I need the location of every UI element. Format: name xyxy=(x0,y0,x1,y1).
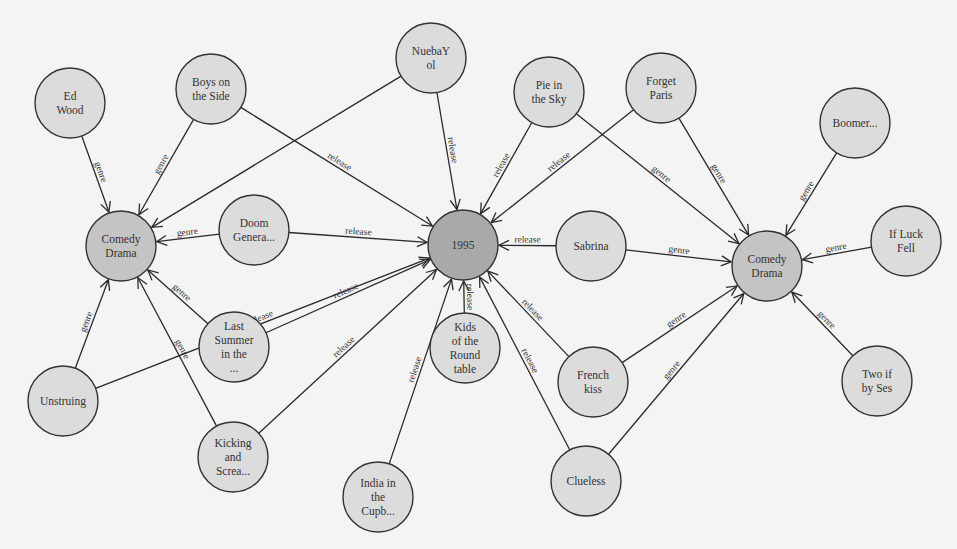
node-label-line: Kicking xyxy=(214,437,251,450)
node-forget-paris[interactable]: ForgetParis xyxy=(626,53,696,123)
node-sabrina[interactable]: Sabrina xyxy=(556,211,626,281)
node-kicking-screa[interactable]: KickingandScrea... xyxy=(198,422,268,492)
node-circle[interactable] xyxy=(35,68,105,138)
node-circle[interactable] xyxy=(732,231,802,301)
edge-line xyxy=(266,260,430,333)
node-label-line: Pie in xyxy=(536,79,563,91)
node-kids-round-table[interactable]: Kidsof theRoundtable xyxy=(430,313,500,383)
node-label-line: If Luck xyxy=(889,228,923,240)
node-label-line: table xyxy=(454,363,476,375)
edge-line xyxy=(464,281,465,313)
node-label-line: Genera... xyxy=(233,231,275,243)
node-label-line: Last xyxy=(224,320,245,332)
edge-boys_on_the_side-to-comedy_drama_left: genre xyxy=(139,119,194,214)
node-circle[interactable] xyxy=(626,53,696,123)
node-label-line: Ed xyxy=(64,90,77,102)
node-unstruing[interactable]: Unstruing xyxy=(28,366,98,436)
graph-diagram: genregenregenregenregenregenrereleaserel… xyxy=(0,0,957,549)
edge-sabrina-to-comedy_drama_right: genre xyxy=(626,244,731,262)
edge-unstruing-to-year_1995: release xyxy=(96,258,430,388)
edge-line xyxy=(622,286,737,363)
edge-last_summer-to-year_1995: release xyxy=(266,260,430,333)
node-french-kiss[interactable]: Frenchkiss xyxy=(558,347,628,417)
node-label-line: India in xyxy=(360,477,396,489)
node-comedy-drama-right[interactable]: ComedyDrama xyxy=(732,231,802,301)
node-label-line: 1995 xyxy=(452,239,475,251)
node-label-line: the Side xyxy=(192,90,229,102)
edge-ed_wood-to-comedy_drama_left: genre xyxy=(82,136,109,212)
edge-pie_in_the_sky-to-year_1995: release xyxy=(481,123,532,214)
node-label-line: Drama xyxy=(105,247,136,259)
node-label-line: Comedy xyxy=(102,233,141,246)
node-label-line: the Sky xyxy=(532,93,567,106)
node-label-line: NuebaY xyxy=(412,45,451,57)
node-clueless[interactable]: Clueless xyxy=(551,446,621,516)
node-circle[interactable] xyxy=(86,211,156,281)
node-nuebayol[interactable]: NuebaYol xyxy=(396,23,466,93)
edge-if_luck_fell-to-comedy_drama_right: genre xyxy=(802,241,871,260)
node-pie-in-the-sky[interactable]: Pie inthe Sky xyxy=(514,57,584,127)
node-label-line: Unstruing xyxy=(40,395,86,408)
edge-line xyxy=(792,292,853,356)
node-label-line: in the xyxy=(221,348,247,360)
node-label-line: Paris xyxy=(650,89,674,101)
node-label-line: Comedy xyxy=(748,253,787,266)
edge-doom_genera-to-comedy_drama_left: genre xyxy=(157,226,220,242)
node-label-line: Drama xyxy=(751,267,782,279)
node-circle[interactable] xyxy=(396,23,466,93)
edge-sabrina-to-year_1995: release xyxy=(499,234,556,245)
edge-line xyxy=(679,118,749,235)
edge-label: genre xyxy=(176,226,198,238)
node-comedy-drama-left[interactable]: ComedyDrama xyxy=(86,211,156,281)
edge-label: genre xyxy=(668,244,690,256)
edge-unstruing-to-comedy_drama_left: genre xyxy=(75,280,108,369)
edge-label: release xyxy=(326,150,354,172)
edge-boomer-to-comedy_drama_right: genre xyxy=(786,153,837,236)
edge-forget_paris-to-comedy_drama_right: genre xyxy=(679,118,749,235)
node-label-line: ... xyxy=(230,362,239,374)
node-circle[interactable] xyxy=(558,347,628,417)
node-label-line: and xyxy=(225,451,242,463)
node-india-cupb[interactable]: India intheCupb... xyxy=(343,462,413,532)
edge-line xyxy=(491,110,633,223)
edge-french_kiss-to-comedy_drama_right: genre xyxy=(622,286,737,363)
edge-nuebayol-to-year_1995: release xyxy=(437,92,460,209)
node-label-line: Cupb... xyxy=(361,505,395,518)
node-circle[interactable] xyxy=(514,57,584,127)
node-boys-on-the-side[interactable]: Boys onthe Side xyxy=(176,54,246,124)
nodes-layer: EdWoodBoys onthe SideNuebaYolPie inthe S… xyxy=(28,23,941,532)
edge-label: release xyxy=(514,234,540,244)
node-circle[interactable] xyxy=(219,195,289,265)
edge-line xyxy=(481,123,532,214)
node-label-line: Forget xyxy=(646,75,677,88)
node-circle[interactable] xyxy=(842,346,912,416)
edge-last_summer-to-comedy_drama_left: genre xyxy=(148,270,208,324)
node-label-line: Fell xyxy=(897,242,915,254)
edge-line xyxy=(96,258,430,388)
node-two-if-by-ses[interactable]: Two ifby Ses xyxy=(842,346,912,416)
node-label-line: kiss xyxy=(584,383,602,395)
node-label-line: Round xyxy=(450,349,481,361)
node-ed-wood[interactable]: EdWood xyxy=(35,68,105,138)
node-label-line: by Ses xyxy=(862,382,893,395)
node-boomer[interactable]: Boomer... xyxy=(820,88,890,158)
edge-line xyxy=(148,270,208,324)
node-year-1995[interactable]: 1995 xyxy=(428,210,498,280)
node-doom-genera[interactable]: DoomGenera... xyxy=(219,195,289,265)
node-label-line: Boys on xyxy=(192,76,230,89)
node-last-summer[interactable]: LastSummerin the... xyxy=(199,312,269,382)
edge-doom_genera-to-year_1995: release xyxy=(289,226,427,243)
node-if-luck-fell[interactable]: If LuckFell xyxy=(871,206,941,276)
node-label-line: Screa... xyxy=(216,465,250,477)
node-label-line: Boomer... xyxy=(832,117,877,129)
edge-kids_round_table-to-year_1995: release xyxy=(464,281,476,313)
node-label-line: ol xyxy=(427,59,436,71)
node-label-line: Wood xyxy=(56,104,83,116)
node-circle[interactable] xyxy=(871,206,941,276)
edge-two_if_by_ses-to-comedy_drama_right: genre xyxy=(792,292,853,356)
node-circle[interactable] xyxy=(176,54,246,124)
edge-forget_paris-to-year_1995: release xyxy=(491,110,633,223)
node-label-line: French xyxy=(577,369,609,381)
edge-line xyxy=(139,119,194,214)
node-label-line: Two if xyxy=(862,368,892,380)
